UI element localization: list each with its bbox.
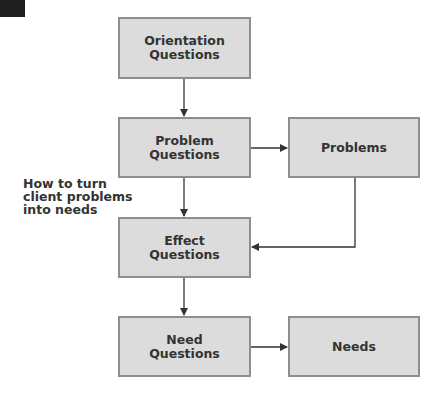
node-orientation-questions: Orientation Questions	[118, 17, 251, 79]
node-label: Problem Questions	[149, 134, 220, 162]
arrow-problems-to-effect	[252, 178, 355, 247]
node-label: Effect Questions	[149, 234, 220, 262]
node-needs: Needs	[288, 316, 420, 377]
node-label: Needs	[332, 340, 376, 354]
node-label: Need Questions	[149, 333, 220, 361]
node-need-questions: Need Questions	[118, 316, 251, 377]
node-problems: Problems	[288, 117, 420, 178]
node-label: Orientation Questions	[144, 34, 225, 62]
node-effect-questions: Effect Questions	[118, 217, 251, 278]
node-label: Problems	[321, 141, 387, 155]
node-problem-questions: Problem Questions	[118, 117, 251, 178]
